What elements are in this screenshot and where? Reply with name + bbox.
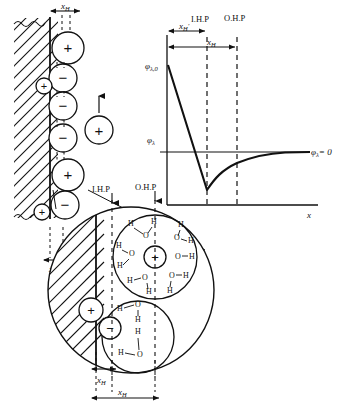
phi-lambda-label: φλ (147, 135, 155, 146)
plot-xh-dimension: xH (169, 37, 235, 48)
inset-adsorbed-cation-sign: + (87, 303, 95, 318)
water-2-oxygen: O (174, 233, 180, 242)
water-2-hydrogen-a: H (178, 220, 184, 229)
inset-xh-label: xH (117, 387, 127, 398)
ion-column (49, 32, 84, 219)
inset-adsorbed-cation: + (79, 298, 103, 322)
ion-sign-plus-1: + (64, 39, 73, 56)
anion-water-1-hydrogen-a: H (117, 304, 123, 313)
plot-xh-prime-label: xH′ (178, 21, 190, 32)
anion-water-1-oxygen: O (135, 300, 141, 309)
top-xh-label: xH (60, 1, 70, 12)
water-4-hydrogen-a: H (189, 252, 195, 261)
adsorbed-ion-sign-1: + (41, 80, 47, 92)
phi-lambda-zero-label: φλ,0 (145, 61, 158, 72)
phi-lambda-equals-zero-label: φλ= 0 (311, 147, 332, 158)
plot-ohp-label: O.H.P (224, 13, 246, 23)
water-3-oxygen: O (129, 249, 135, 258)
plot-xh-label: xH (206, 37, 216, 48)
anion-core-sign: − (106, 321, 114, 336)
potential-plot: φλ,0 φλ φλ= 0 x I.H.P O.H.P xH′ (145, 13, 332, 220)
potential-curve (168, 65, 310, 190)
anion-water-2-hydrogen-a: H (135, 327, 141, 336)
water-4-oxygen: O (175, 252, 181, 261)
free-ion-group: + (85, 96, 113, 144)
double-layer-figure: xH + − − − + − + + (0, 0, 349, 409)
water-6-hydrogen-b: H (167, 286, 173, 295)
water-6-oxygen: O (169, 271, 175, 280)
plot-ihp-label: I.H.P (191, 14, 209, 24)
inset-ohp-label: O.H.P (135, 182, 157, 192)
inset-ihp-label: I.H.P (92, 184, 110, 194)
anion-water-2-oxygen: O (137, 350, 143, 359)
inset-plane-labels: I.H.P O.H.P (92, 182, 157, 203)
water-1-hydrogen-a: H (128, 219, 134, 228)
water-3-hydrogen-a: H (116, 241, 122, 250)
ion-sign-minus-1: − (59, 69, 68, 86)
anion-water-1-hydrogen-b: H (135, 315, 141, 324)
adsorbed-ion-sign-2: + (39, 206, 45, 218)
figure-canvas: xH + − − − + − + + (0, 0, 349, 409)
ion-sign-minus-4: − (61, 196, 70, 213)
inset-xh-prime-label: xH (96, 375, 106, 386)
ion-sign-minus-3: − (59, 129, 68, 146)
anion-water-2-hydrogen-b: H (118, 348, 124, 357)
ion-sign-minus-2: − (59, 97, 68, 114)
plot-x-axis-label: x (306, 210, 311, 220)
ion-sign-plus-2: + (64, 166, 73, 183)
water-5-hydrogen-a: H (127, 276, 133, 285)
water-5-hydrogen-b: H (146, 287, 152, 296)
water-5-oxygen: O (142, 273, 148, 282)
water-2-hydrogen-b: H (188, 236, 194, 245)
water-1-hydrogen-b: H (151, 217, 157, 226)
free-ion-sign: + (95, 122, 104, 139)
water-3-hydrogen-b: H (117, 261, 123, 270)
water-6-hydrogen-a: H (183, 271, 189, 280)
